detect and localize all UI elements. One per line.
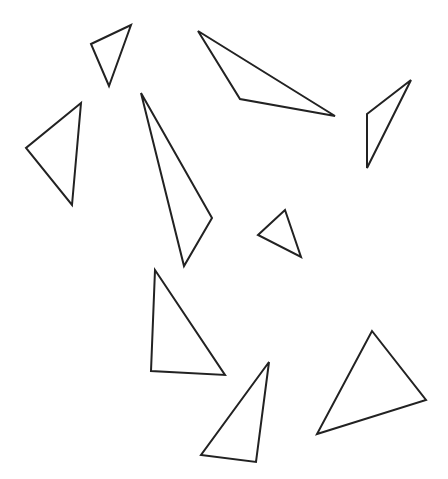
triangle-6 — [258, 210, 301, 257]
triangle-1 — [91, 25, 131, 86]
triangles-diagram — [0, 0, 448, 479]
triangle-9 — [317, 331, 426, 434]
triangle-7 — [151, 270, 225, 375]
triangle-8 — [201, 362, 269, 462]
triangle-2 — [26, 103, 81, 205]
triangle-3 — [141, 93, 212, 266]
triangle-5 — [367, 80, 411, 168]
triangle-4 — [198, 31, 335, 116]
